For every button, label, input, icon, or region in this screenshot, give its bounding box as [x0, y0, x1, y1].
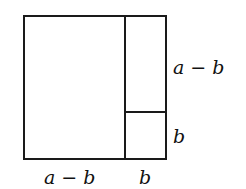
outer-right-edge: [165, 15, 167, 160]
label-bottom-left: a − b: [44, 168, 96, 187]
inner-vertical-divider: [124, 15, 126, 160]
label-bottom-right: b: [139, 168, 151, 187]
label-right-top: a − b: [173, 58, 225, 77]
outer-left-edge: [23, 15, 25, 160]
outer-bottom-edge: [23, 158, 166, 160]
outer-top-edge: [23, 15, 166, 17]
label-right-bottom: b: [173, 127, 185, 146]
inner-horizontal-divider: [124, 111, 167, 113]
